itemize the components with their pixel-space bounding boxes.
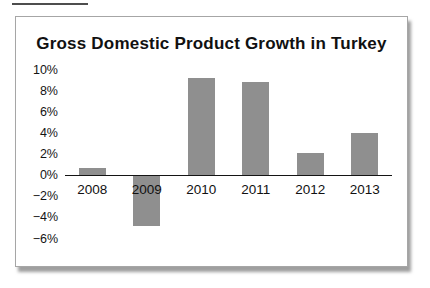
chart-frame: Gross Domestic Product Growth in Turkey … (15, 16, 408, 267)
bar-2013 (351, 133, 378, 175)
bar-2010 (188, 78, 215, 175)
x-tick-label-2013: 2013 (338, 182, 393, 198)
x-tick-label-2012: 2012 (283, 182, 338, 198)
x-tick-label-2008: 2008 (65, 182, 120, 198)
y-tick-label: 2% (16, 148, 58, 161)
y-tick-label: 0% (16, 169, 58, 182)
y-tick-label: 8% (16, 85, 58, 98)
y-tick-label: 6% (16, 106, 58, 119)
x-tick-label-2010: 2010 (174, 182, 229, 198)
x-tick-label-2009: 2009 (120, 182, 175, 198)
y-tick-label: 4% (16, 127, 58, 140)
chart-title: Gross Domestic Product Growth in Turkey (16, 34, 407, 54)
x-tick-label-2011: 2011 (229, 182, 284, 198)
y-tick-label: 10% (16, 63, 58, 76)
x-axis-line (65, 175, 392, 177)
y-tick-label: −6% (16, 232, 58, 245)
bar-2012 (297, 153, 324, 175)
figure-canvas: Gross Domestic Product Growth in Turkey … (0, 0, 430, 288)
bar-2011 (242, 82, 269, 175)
y-tick-label: −2% (16, 190, 58, 203)
y-tick-label: −4% (16, 211, 58, 224)
figure-caption-underline (12, 3, 88, 5)
